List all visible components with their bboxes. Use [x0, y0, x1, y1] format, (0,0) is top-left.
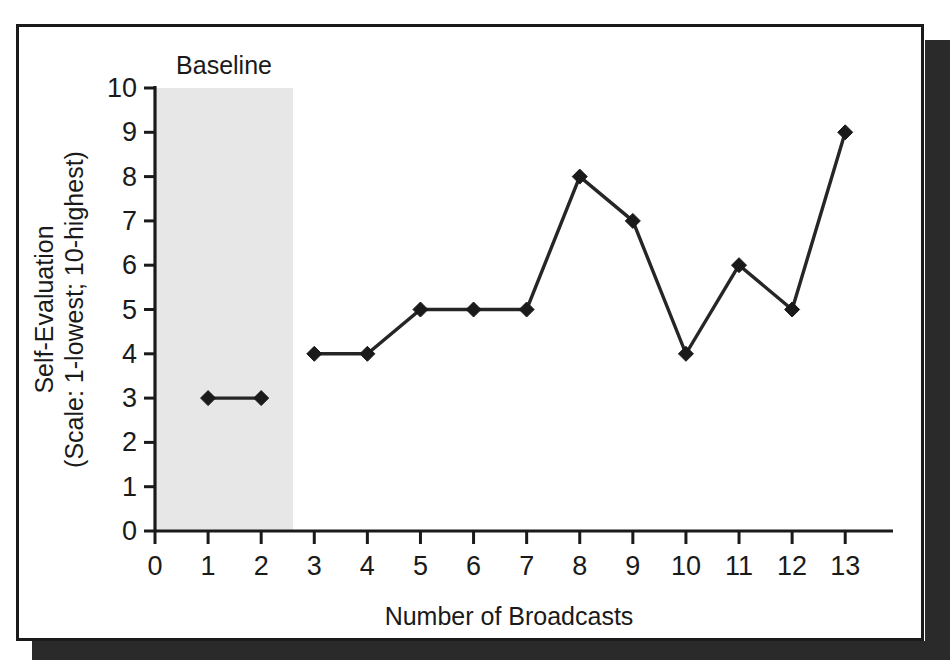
- data-point-marker: [678, 346, 693, 361]
- x-tick-label: 5: [413, 551, 428, 581]
- y-tick-label: 5: [122, 295, 137, 325]
- y-tick-label: 2: [122, 427, 137, 457]
- y-axis-title-line-1: Self-Evaluation: [30, 225, 58, 393]
- x-tick-label: 11: [725, 551, 753, 581]
- figure-page: Baseline 012345678910 012345678910111213…: [0, 0, 950, 669]
- line-chart: Baseline 012345678910 012345678910111213…: [19, 27, 927, 644]
- x-tick-label: 0: [147, 551, 162, 581]
- y-tick-label: 1: [122, 472, 137, 502]
- x-tick-label: 3: [307, 551, 322, 581]
- x-axis-title: Number of Broadcasts: [385, 602, 634, 630]
- series-line-intervention: [314, 132, 845, 353]
- chart-plot-area: Baseline 012345678910 012345678910111213…: [19, 27, 927, 644]
- data-point-marker: [466, 302, 481, 317]
- x-tick-label: 8: [572, 551, 587, 581]
- x-tick-label: 12: [777, 551, 807, 581]
- y-tick-label: 8: [122, 162, 137, 192]
- y-axis-ticks: 012345678910: [107, 73, 155, 546]
- chart-series-layer: [201, 125, 853, 406]
- x-tick-label: 13: [830, 551, 860, 581]
- x-tick-label: 1: [201, 551, 216, 581]
- y-tick-label: 7: [122, 206, 137, 236]
- y-tick-label: 10: [107, 73, 137, 103]
- data-point-marker: [519, 302, 534, 317]
- y-tick-label: 9: [122, 117, 137, 147]
- x-tick-label: 9: [625, 551, 640, 581]
- x-axis-ticks: 012345678910111213: [147, 531, 860, 581]
- data-point-marker: [307, 346, 322, 361]
- x-tick-label: 4: [360, 551, 375, 581]
- y-tick-label: 3: [122, 383, 137, 413]
- figure-frame: Baseline 012345678910 012345678910111213…: [16, 24, 924, 641]
- y-axis-title-line-2: (Scale: 1-lowest; 10-highest): [60, 151, 88, 468]
- x-tick-label: 7: [519, 551, 534, 581]
- x-tick-label: 10: [671, 551, 701, 581]
- page-drop-shadow-right: [925, 40, 950, 660]
- x-tick-label: 2: [254, 551, 269, 581]
- x-tick-label: 6: [466, 551, 481, 581]
- baseline-shaded-region: [155, 88, 293, 531]
- y-tick-label: 4: [122, 339, 137, 369]
- y-tick-label: 0: [122, 516, 137, 546]
- y-tick-label: 6: [122, 250, 137, 280]
- data-point-marker: [838, 125, 853, 140]
- baseline-phase-label: Baseline: [176, 51, 272, 79]
